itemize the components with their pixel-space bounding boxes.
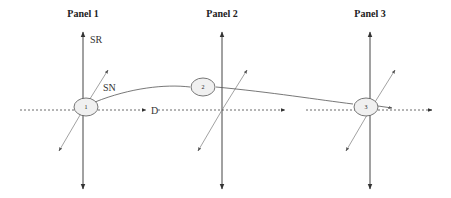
node-2-label: 2	[202, 84, 205, 90]
trajectory-diagram: Panel 1 Panel 2 Panel 3 SR SN D 1 2	[0, 0, 451, 198]
sr-label: SR	[90, 34, 103, 45]
node-1-label: 1	[85, 104, 88, 110]
node-3-label: 3	[365, 104, 368, 110]
sn-axis-down	[59, 110, 83, 151]
panel-3-title: Panel 3	[354, 8, 385, 19]
sn-axis-down	[198, 110, 222, 151]
trajectory-curve	[95, 86, 353, 104]
node-2: 2	[191, 78, 215, 96]
node-3: 3	[354, 98, 378, 116]
sn-label: SN	[103, 82, 116, 93]
panel-1-title: Panel 1	[67, 8, 98, 19]
node-1: 1	[74, 98, 98, 116]
d-label: D	[151, 105, 158, 116]
panel-2-axes	[158, 32, 285, 189]
trajectory-exit-arrow	[378, 106, 392, 108]
panel-2-title: Panel 2	[206, 8, 237, 19]
